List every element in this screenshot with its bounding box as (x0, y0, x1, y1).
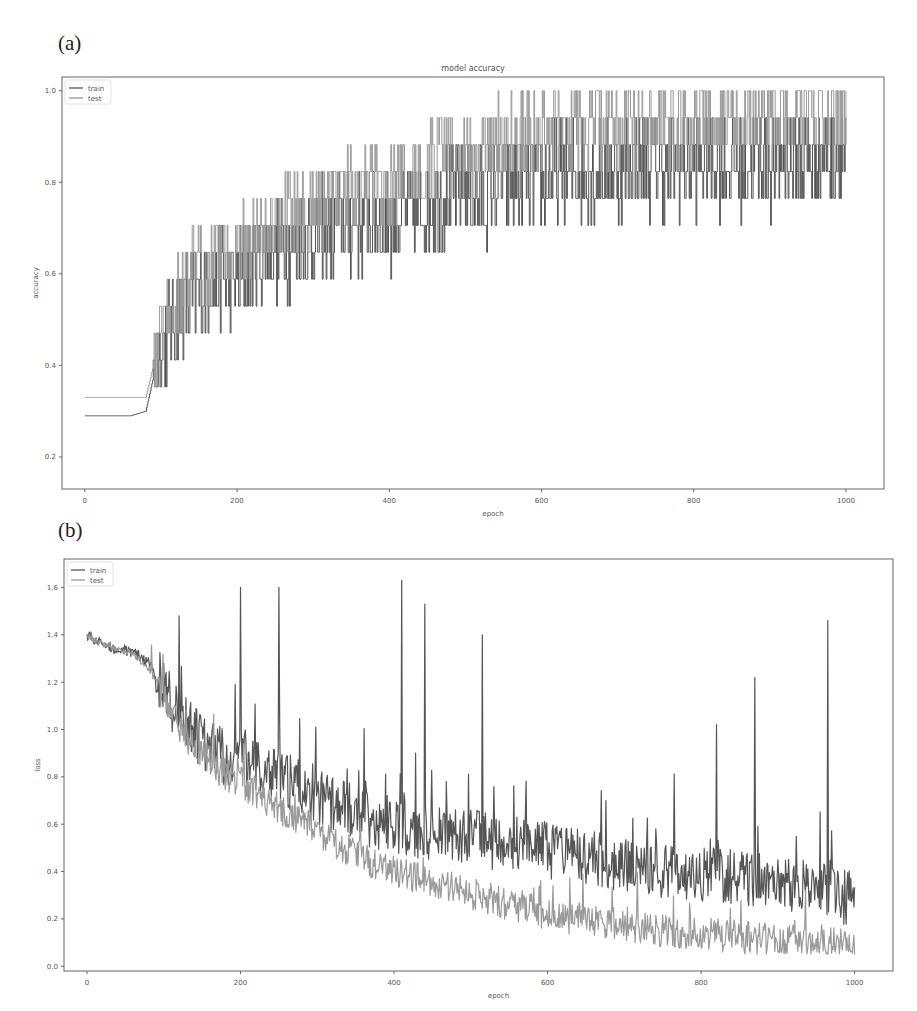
x-tick-label: 0 (83, 497, 87, 505)
y-tick-label: 0.4 (45, 362, 57, 370)
series-test-line (85, 91, 846, 398)
x-tick-label: 200 (230, 497, 243, 505)
panel-a-label: (a) (58, 31, 81, 56)
x-tick-label: 400 (387, 979, 400, 987)
legend-label-test: test (88, 95, 102, 103)
y-tick-label: 0.8 (47, 773, 58, 781)
accuracy-chart: model accuracy020040060080010000.20.40.6… (0, 55, 917, 525)
accuracy-plot-svg: model accuracy020040060080010000.20.40.6… (0, 55, 917, 525)
plot-frame (64, 559, 893, 971)
y-tick-label: 0.2 (47, 915, 58, 923)
series-test-line (87, 634, 855, 954)
x-tick-label: 600 (541, 979, 554, 987)
y-tick-label: 0.8 (45, 179, 56, 187)
legend-label-test: test (90, 577, 104, 585)
x-tick-label: 1000 (846, 979, 864, 987)
x-tick-label: 400 (383, 497, 396, 505)
y-axis-label: accuracy (32, 267, 40, 299)
legend: traintest (65, 80, 111, 104)
x-axis-label: epoch (488, 992, 509, 1000)
y-tick-label: 0.4 (47, 868, 59, 876)
chart-title: model accuracy (441, 64, 505, 73)
x-tick-label: 800 (694, 979, 707, 987)
y-tick-label: 0.6 (47, 821, 59, 829)
x-tick-label: 200 (234, 979, 247, 987)
y-tick-label: 1.6 (47, 584, 59, 592)
loss-chart: 020040060080010000.00.20.40.60.81.01.21.… (0, 545, 917, 1011)
x-tick-label: 1000 (837, 497, 855, 505)
legend-label-train: train (88, 85, 104, 93)
x-tick-label: 600 (535, 497, 548, 505)
y-tick-label: 1.2 (47, 679, 58, 687)
x-tick-label: 800 (687, 497, 700, 505)
x-axis-label: epoch (482, 510, 503, 518)
panel-b-label: (b) (58, 518, 83, 543)
y-tick-label: 1.0 (47, 726, 58, 734)
y-tick-label: 1.0 (45, 87, 56, 95)
legend-label-train: train (90, 567, 106, 575)
legend: traintest (67, 562, 113, 586)
y-tick-label: 0.0 (47, 963, 58, 971)
loss-plot-svg: 020040060080010000.00.20.40.60.81.01.21.… (0, 545, 917, 1011)
y-tick-label: 1.4 (47, 631, 59, 639)
y-tick-label: 0.2 (45, 453, 56, 461)
x-tick-label: 0 (85, 979, 89, 987)
y-axis-label: loss (34, 758, 42, 772)
y-tick-label: 0.6 (45, 270, 57, 278)
